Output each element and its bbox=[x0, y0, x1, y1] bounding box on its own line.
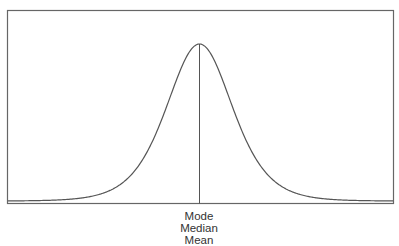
mean-label: Mean bbox=[149, 234, 249, 246]
bell-curve bbox=[8, 44, 393, 201]
median-label: Median bbox=[149, 222, 249, 234]
chart-frame bbox=[8, 11, 394, 204]
mode-label: Mode bbox=[149, 210, 249, 222]
central-tendency-labels: Mode Median Mean bbox=[149, 210, 249, 246]
